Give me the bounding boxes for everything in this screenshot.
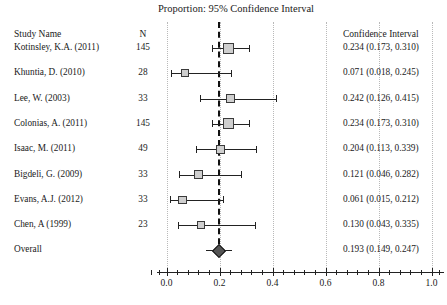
ci-cap-upper (231, 70, 232, 77)
reference-line (218, 22, 220, 254)
study-ci-value: 0.234 (0.173, 0.310) (343, 118, 419, 128)
effect-size-box (178, 196, 187, 205)
effect-size-box (223, 118, 234, 129)
x-axis-tick-minor (410, 270, 411, 275)
study-n-value: 33 (130, 169, 156, 179)
study-ci-value: 0.121 (0.046, 0.282) (343, 169, 419, 179)
ci-cap-upper (249, 45, 250, 52)
x-axis-tick-major (167, 268, 168, 276)
x-axis-tick-minor (151, 270, 152, 275)
x-axis-tick-minor (251, 270, 252, 275)
effect-size-box (216, 145, 225, 154)
ci-cap-upper (241, 171, 242, 178)
x-axis-tick-minor (159, 270, 160, 275)
study-ci-value: 0.071 (0.018, 0.245) (343, 67, 419, 77)
ci-cap-lower (196, 146, 197, 153)
overall-diamond (212, 244, 226, 258)
effect-size-box (226, 94, 235, 103)
study-name-label: Chen, A (1999) (14, 219, 71, 229)
column-header-confidence-interval: Confidence Interval (343, 29, 419, 39)
study-name-label: Colonias, A. (2011) (14, 118, 87, 128)
column-header-n: N (130, 29, 156, 39)
ci-line (196, 149, 256, 150)
x-axis-tick-minor (421, 270, 422, 275)
study-n-value: 28 (130, 67, 156, 77)
ci-cap-upper (255, 222, 256, 229)
study-name-label: Khuntia, D. (2010) (14, 67, 85, 77)
study-ci-value: 0.234 (0.173, 0.310) (343, 42, 419, 52)
overall-ci-value: 0.193 (0.149, 0.247) (343, 244, 419, 254)
ci-cap-lower (170, 196, 171, 203)
x-axis-tick-label: 0.0 (152, 278, 182, 288)
x-axis-tick-minor (241, 270, 242, 275)
x-axis-tick-minor (336, 270, 337, 275)
x-axis-tick-major (326, 268, 327, 276)
study-name-label: Evans, A.J. (2012) (14, 194, 83, 204)
x-axis-tick-minor (304, 270, 305, 275)
gridline-1 (432, 22, 433, 268)
x-axis-tick-major (220, 268, 221, 276)
x-axis-tick-minor (347, 270, 348, 275)
study-name-label: Kotinsley, K.A. (2011) (14, 42, 99, 52)
ci-cap-upper (249, 120, 250, 127)
x-axis-tick-minor (177, 270, 178, 275)
study-ci-value: 0.061 (0.015, 0.212) (343, 194, 419, 204)
study-ci-value: 0.204 (0.113, 0.339) (343, 143, 419, 153)
x-axis-tick-label: 0.8 (364, 278, 394, 288)
ci-cap-upper (256, 146, 257, 153)
x-axis-tick-minor (198, 270, 199, 275)
chart-title: Proportion: 95% Confidence Interval (158, 3, 314, 14)
study-name-label: Lee, W. (2003) (14, 93, 70, 103)
x-axis-tick-minor (315, 270, 316, 275)
x-axis-tick-minor (294, 270, 295, 275)
gridline-0 (167, 22, 168, 268)
ci-cap-lower (178, 222, 179, 229)
x-axis-tick-minor (357, 270, 358, 275)
study-n-value: 145 (130, 42, 156, 52)
ci-cap-lower (212, 120, 213, 127)
effect-size-box (197, 221, 205, 229)
x-axis-tick-label: 0.2 (205, 278, 235, 288)
study-name-label: Isaac, M. (2011) (14, 143, 75, 153)
effect-size-box (194, 170, 203, 179)
gridline-0.6 (326, 22, 327, 268)
ci-cap-lower (212, 45, 213, 52)
x-axis-tick-minor (230, 270, 231, 275)
study-n-value: 145 (130, 118, 156, 128)
study-n-value: 23 (130, 219, 156, 229)
ci-line (179, 175, 242, 176)
study-name-label: Bigdeli, G. (2009) (14, 169, 82, 179)
study-ci-value: 0.242 (0.126, 0.415) (343, 93, 419, 103)
effect-size-box (181, 69, 189, 77)
x-axis-tick-label: 0.4 (258, 278, 288, 288)
ci-cap-upper (276, 95, 277, 102)
x-axis-tick-minor (283, 270, 284, 275)
x-axis-tick-major (273, 268, 274, 276)
overall-label: Overall (14, 244, 42, 254)
x-axis-tick-minor (368, 270, 369, 275)
ci-cap-lower (171, 70, 172, 77)
column-header-study-name: Study Name (14, 29, 61, 39)
study-n-value: 33 (130, 194, 156, 204)
x-axis-tick-major (432, 268, 433, 276)
x-axis-tick-minor (439, 270, 440, 275)
x-axis-tick-minor (389, 270, 390, 275)
gridline-0.4 (273, 22, 274, 268)
x-axis-tick-minor (400, 270, 401, 275)
ci-line (178, 225, 255, 226)
x-axis-tick-minor (209, 270, 210, 275)
study-n-value: 33 (130, 93, 156, 103)
x-axis-tick-label: 1.0 (417, 278, 447, 288)
study-ci-value: 0.130 (0.043, 0.335) (343, 219, 419, 229)
x-axis-tick-label: 0.6 (311, 278, 341, 288)
x-axis-tick-minor (262, 270, 263, 275)
study-n-value: 49 (130, 143, 156, 153)
ci-cap-lower (179, 171, 180, 178)
ci-cap-lower (200, 95, 201, 102)
ci-line (200, 99, 277, 100)
x-axis-tick-minor (188, 270, 189, 275)
x-axis-tick-major (379, 268, 380, 276)
effect-size-box (223, 43, 234, 54)
ci-cap-upper (223, 196, 224, 203)
